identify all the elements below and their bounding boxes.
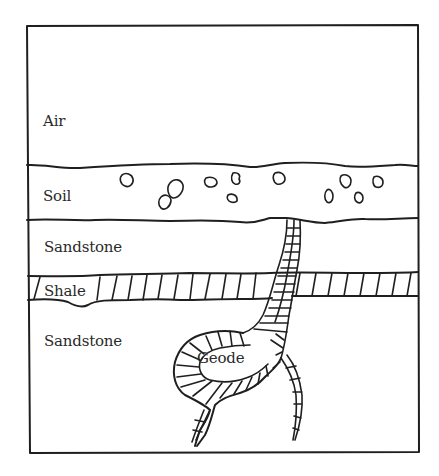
geology-cross-section-diagram: Air Soil Sandstone Shale Sandstone Geode: [0, 0, 439, 476]
layer-label-sandstone-upper: Sandstone: [44, 240, 122, 255]
layer-label-soil: Soil: [43, 189, 71, 204]
layer-label-air: Air: [43, 114, 65, 129]
shale-top-boundary: [28, 272, 418, 276]
soil-pebbles: [120, 172, 383, 209]
geode-vein: [243, 220, 300, 358]
air-soil-boundary: [27, 163, 418, 169]
geode-tail-right: [281, 355, 302, 440]
feature-label-geode: Geode: [197, 351, 244, 366]
layer-label-sandstone-lower: Sandstone: [44, 334, 122, 349]
geode-outer-lower: [197, 358, 281, 446]
layer-label-shale: Shale: [44, 284, 86, 299]
geode-crystals: [177, 331, 282, 404]
geode-tail-left: [192, 410, 210, 442]
soil-sandstone-boundary: [27, 218, 418, 223]
